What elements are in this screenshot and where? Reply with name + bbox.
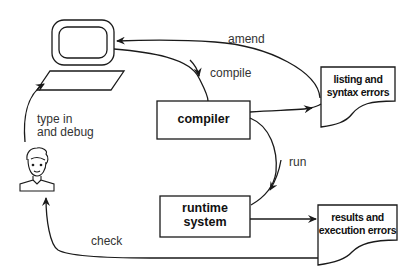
listing-label-line2: syntax errors — [321, 86, 395, 99]
type-in-label-line2: and debug — [37, 125, 94, 139]
compile-label: compile — [210, 66, 251, 80]
type-in-label-line1: type in — [37, 112, 72, 126]
compiler-label: compiler — [157, 112, 250, 127]
runtime-label-line1: runtime — [160, 201, 250, 216]
compile-arrow — [114, 49, 208, 101]
run-arrow — [250, 118, 276, 205]
user-icon — [20, 148, 54, 191]
results-label-line2: execution errors — [318, 224, 397, 237]
computer-icon — [37, 20, 124, 90]
amend-label: amend — [228, 32, 265, 46]
run-label: run — [289, 155, 306, 169]
diagram-canvas — [0, 0, 414, 279]
compiler-to-listing-arrow — [250, 108, 312, 112]
results-label-line1: results and — [318, 211, 397, 224]
check-label: check — [91, 234, 122, 248]
runtime-label-line2: system — [160, 215, 250, 230]
listing-label-line1: listing and — [321, 73, 395, 86]
